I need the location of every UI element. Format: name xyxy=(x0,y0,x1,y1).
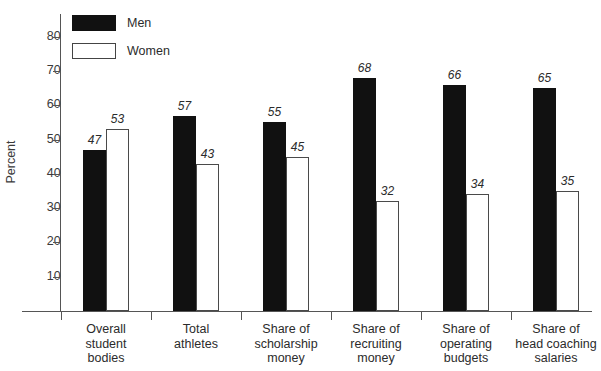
y-tick-70: 70 xyxy=(0,71,61,72)
y-tick-label-50: 50 xyxy=(33,132,61,146)
bar-men-5 xyxy=(533,88,556,311)
bar-value-men-1: 57 xyxy=(170,99,200,113)
y-tick-mark-40 xyxy=(53,174,61,175)
y-axis-title: Percent xyxy=(4,132,18,192)
y-tick-label-40: 40 xyxy=(33,166,61,180)
y-tick-10: 10 xyxy=(0,277,61,278)
bar-women-1 xyxy=(196,164,219,311)
x-tick-boundary-3 xyxy=(331,311,332,320)
bar-men-4 xyxy=(443,85,466,311)
bar-women-0 xyxy=(106,129,129,311)
bar-value-men-3: 68 xyxy=(350,61,380,75)
y-tick-mark-60 xyxy=(53,105,61,106)
bar-value-women-1: 43 xyxy=(193,147,223,161)
x-category-label-5: Share of head coaching salaries xyxy=(511,322,601,366)
x-tick-boundary-5 xyxy=(511,311,512,320)
bar-men-0 xyxy=(83,150,106,311)
y-tick-20: 20 xyxy=(0,242,61,243)
bar-value-women-2: 45 xyxy=(283,140,313,154)
bar-women-4 xyxy=(466,194,489,311)
x-category-label-2: Share of scholarship money xyxy=(241,322,331,366)
y-tick-60: 60 xyxy=(0,105,61,106)
x-category-label-1: Total athletes xyxy=(151,322,241,351)
plot-area: 475357435545683266346535 xyxy=(61,0,601,311)
bar-value-women-0: 53 xyxy=(103,112,133,126)
x-tick-boundary-0 xyxy=(61,311,62,320)
x-tick-boundary-4 xyxy=(421,311,422,320)
bar-women-5 xyxy=(556,191,579,311)
y-tick-mark-70 xyxy=(53,71,61,72)
y-tick-label-60: 60 xyxy=(33,97,61,111)
y-tick-label-80: 80 xyxy=(33,29,61,43)
bar-value-women-3: 32 xyxy=(373,184,403,198)
x-tick-boundary-1 xyxy=(151,311,152,320)
bar-value-women-4: 34 xyxy=(463,177,493,191)
x-category-label-4: Share of operating budgets xyxy=(421,322,511,366)
bar-women-2 xyxy=(286,157,309,311)
bar-value-men-2: 55 xyxy=(260,105,290,119)
y-tick-50: 50 xyxy=(0,140,61,141)
bar-chart: Percent 1020304050607080 Men Women 47535… xyxy=(0,0,601,371)
y-tick-mark-80 xyxy=(53,37,61,38)
y-tick-40: 40 xyxy=(0,174,61,175)
y-tick-mark-10 xyxy=(53,277,61,278)
x-category-label-0: Overall student bodies xyxy=(61,322,151,366)
bar-value-women-5: 35 xyxy=(553,174,583,188)
bar-value-men-5: 65 xyxy=(530,71,560,85)
bar-men-1 xyxy=(173,116,196,311)
bar-value-men-4: 66 xyxy=(440,68,470,82)
x-category-label-3: Share of recruiting money xyxy=(331,322,421,366)
y-tick-mark-20 xyxy=(53,242,61,243)
y-tick-mark-50 xyxy=(53,140,61,141)
x-tick-boundary-2 xyxy=(241,311,242,320)
y-tick-label-30: 30 xyxy=(33,200,61,214)
y-tick-label-20: 20 xyxy=(33,234,61,248)
y-tick-80: 80 xyxy=(0,37,61,38)
y-tick-30: 30 xyxy=(0,208,61,209)
y-tick-label-70: 70 xyxy=(33,63,61,77)
bar-value-men-0: 47 xyxy=(80,133,110,147)
x-axis-line xyxy=(22,311,592,312)
bar-women-3 xyxy=(376,201,399,311)
y-tick-mark-30 xyxy=(53,208,61,209)
y-tick-label-10: 10 xyxy=(33,269,61,283)
